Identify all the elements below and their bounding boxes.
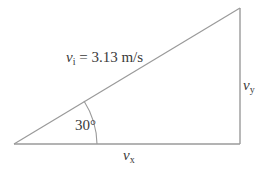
vertical-side-label: vy <box>243 78 255 93</box>
hypotenuse-symbol: v <box>66 49 73 65</box>
hypotenuse-value: = 3.13 m/s <box>75 49 143 65</box>
angle-label: 30° <box>75 118 96 133</box>
vy-symbol: v <box>243 77 250 93</box>
horizontal-side-label: vx <box>123 148 135 163</box>
hypotenuse-line <box>14 8 240 144</box>
vx-subscript: x <box>130 154 135 165</box>
hypotenuse-label: vi = 3.13 m/s <box>66 50 143 65</box>
triangle-diagram <box>0 0 273 175</box>
vx-symbol: v <box>123 147 130 163</box>
vy-subscript: y <box>250 84 255 95</box>
